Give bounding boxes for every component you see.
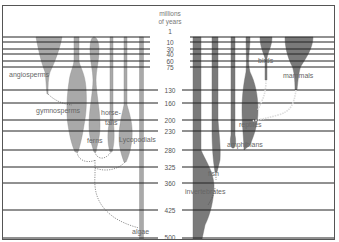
- label-lycopodials: Lycopodials: [119, 136, 156, 144]
- label-mammals: mammals: [283, 72, 314, 79]
- label-invertebrates: invertebrates: [185, 188, 226, 195]
- label-birds: birds: [258, 57, 274, 64]
- label-ferns: ferns: [87, 137, 103, 144]
- axis-title-line1: millions: [159, 10, 181, 17]
- tick-230: 230: [165, 128, 176, 135]
- tick-130: 130: [165, 87, 176, 94]
- tick-425: 425: [165, 207, 176, 214]
- tick-360: 360: [165, 180, 176, 187]
- label-algae: algae: [132, 228, 149, 236]
- label-gymnosperms: gymnosperms: [36, 107, 80, 115]
- tick-280: 280: [165, 147, 176, 154]
- tick-75: 75: [166, 64, 174, 71]
- label-angiosperms: angiosperms: [9, 71, 50, 79]
- label-fish: fish: [208, 170, 219, 177]
- tick-10: 10: [166, 39, 174, 46]
- tick-160: 160: [165, 100, 176, 107]
- label-reptiles: reptiles: [239, 121, 262, 129]
- label-horsetails-1: horse-: [101, 109, 122, 116]
- axis-title-line2: of years: [158, 18, 182, 26]
- tick-200: 200: [165, 117, 176, 124]
- tick-1: 1: [168, 28, 172, 35]
- tick-500: 500: [165, 234, 176, 241]
- label-amphibians: amphibians: [227, 141, 263, 149]
- label-horsetails-2: tails: [105, 119, 118, 126]
- evolution-timeline-diagram: millions of years 1 10 30 40 60 75 130 1…: [0, 0, 339, 242]
- tick-325: 325: [165, 164, 176, 171]
